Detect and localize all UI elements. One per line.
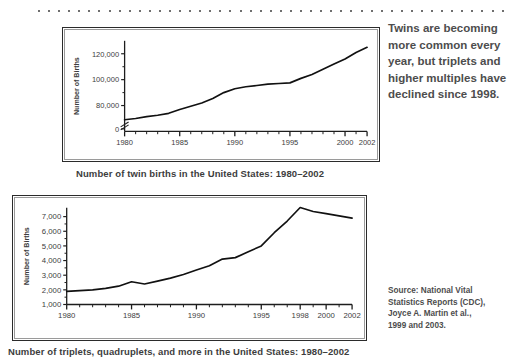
- x-tick-label: 2000: [318, 311, 335, 320]
- y-tick-label: 7,000: [42, 213, 61, 222]
- dot: [421, 10, 423, 12]
- dot: [169, 10, 171, 12]
- data-series-line: [125, 47, 367, 120]
- x-tick-label: 1990: [188, 311, 205, 320]
- dot: [502, 10, 504, 12]
- dot: [361, 10, 363, 12]
- chart-triplets-caption: Number of triplets, quadruplets, and mor…: [8, 346, 349, 357]
- data-series-line: [67, 208, 352, 292]
- dot: [471, 10, 473, 12]
- dot: [401, 10, 403, 12]
- dot: [461, 10, 463, 12]
- chart-triplets-frame: 1,0002,0003,0004,0005,0006,0007,00019801…: [12, 195, 367, 341]
- dot: [240, 10, 242, 12]
- dot: [250, 10, 252, 12]
- x-tick-label: 1995: [253, 311, 270, 320]
- x-tick-label: 2002: [359, 138, 376, 147]
- y-tick-label: 5,000: [42, 242, 61, 251]
- y-tick-label: 4,000: [42, 256, 61, 265]
- dot: [109, 10, 111, 12]
- x-tick-label: 1985: [171, 138, 188, 147]
- dot: [451, 10, 453, 12]
- y-tick-label: 100,000: [92, 76, 119, 85]
- dot: [391, 10, 393, 12]
- chart-twin-births-frame: 080,000100,000120,0001980198519901995200…: [62, 27, 380, 162]
- dot: [381, 10, 383, 12]
- dot: [88, 10, 90, 12]
- chart-triplets-plot: 1,0002,0003,0004,0005,0006,0007,00019801…: [13, 196, 366, 340]
- dot: [189, 10, 191, 12]
- source-note: Source: National Vital Statistics Report…: [388, 285, 510, 331]
- dot: [371, 10, 373, 12]
- x-tick-label: 2002: [343, 311, 360, 320]
- triplets-line-chart: 1,0002,0003,0004,0005,0006,0007,00019801…: [13, 196, 366, 340]
- dot: [441, 10, 443, 12]
- dot: [310, 10, 312, 12]
- dot: [159, 10, 161, 12]
- dot: [199, 10, 201, 12]
- y-tick-label: 120,000: [92, 50, 119, 59]
- pull-quote-text: Twins are becoming more common every yea…: [388, 20, 508, 103]
- chart-twin-births-plot: 080,000100,000120,0001980198519901995200…: [63, 28, 379, 161]
- y-tick-label: 0: [115, 125, 119, 134]
- x-tick-label: 2000: [337, 138, 354, 147]
- twin-births-line-chart: 080,000100,000120,0001980198519901995200…: [63, 28, 379, 161]
- dot: [481, 10, 483, 12]
- x-tick-label: 1980: [58, 311, 75, 320]
- y-axis-title: Number of Births: [73, 57, 81, 115]
- dot: [219, 10, 221, 12]
- source-note-line-4: 1999 and 2003.: [388, 320, 510, 332]
- dot: [78, 10, 80, 12]
- x-tick-label: 1985: [123, 311, 140, 320]
- y-axis-title: Number of Births: [23, 227, 31, 285]
- dot: [38, 10, 40, 12]
- y-tick-label: 6,000: [42, 227, 61, 236]
- y-tick-label: 3,000: [42, 271, 61, 280]
- x-tick-label: 1990: [226, 138, 243, 147]
- dot: [350, 10, 352, 12]
- source-note-line-3: Joyce A. Martin et al.,: [388, 308, 510, 320]
- y-tick-label: 2,000: [42, 286, 61, 295]
- dot: [340, 10, 342, 12]
- dot: [320, 10, 322, 12]
- dot: [290, 10, 292, 12]
- x-tick-label: 1980: [116, 138, 133, 147]
- decorative-dot-rule: [38, 8, 504, 14]
- dot: [48, 10, 50, 12]
- dot: [411, 10, 413, 12]
- dot: [209, 10, 211, 12]
- dot: [270, 10, 272, 12]
- dot: [260, 10, 262, 12]
- dot: [129, 10, 131, 12]
- chart-twin-births-caption: Number of twin births in the United Stat…: [76, 168, 324, 179]
- source-note-line-2: Statistics Reports (CDC),: [388, 297, 510, 309]
- dot: [280, 10, 282, 12]
- dot: [68, 10, 70, 12]
- dot: [58, 10, 60, 12]
- dot: [119, 10, 121, 12]
- x-tick-label: 1995: [282, 138, 299, 147]
- dot: [300, 10, 302, 12]
- x-tick-label: 1998: [292, 311, 309, 320]
- dot: [431, 10, 433, 12]
- dot: [229, 10, 231, 12]
- dot: [330, 10, 332, 12]
- dot: [492, 10, 494, 12]
- source-note-line-1: Source: National Vital: [388, 285, 510, 297]
- dot: [149, 10, 151, 12]
- y-tick-label: 80,000: [96, 101, 119, 110]
- y-tick-label: 1,000: [42, 300, 61, 309]
- dot: [179, 10, 181, 12]
- dot: [139, 10, 141, 12]
- dot: [98, 10, 100, 12]
